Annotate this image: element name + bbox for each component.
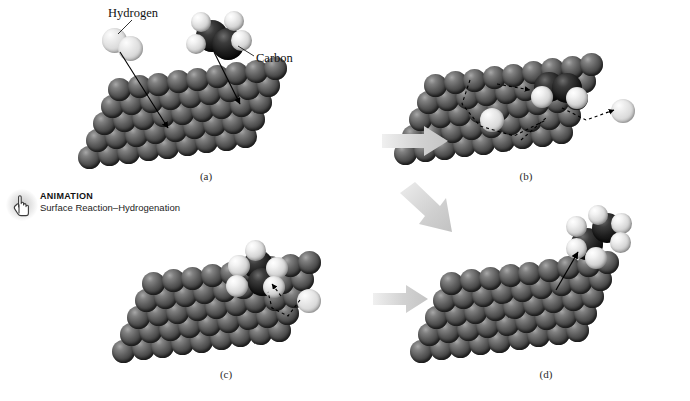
animation-title: ANIMATION [40, 191, 93, 201]
hydrogen-atom-adsorbed [611, 99, 635, 123]
hydrogen-atom [263, 276, 285, 298]
hydrogen-atom [610, 232, 631, 253]
figure-canvas: Hydrogen Carbon (a) (b) (c) [0, 0, 690, 401]
panel-caption-c: (c) [206, 368, 246, 380]
hydrogen-atom [191, 12, 211, 32]
hydrogen-atom [611, 213, 632, 234]
hydrogen-atom [566, 216, 587, 237]
hydrogen-atom [588, 205, 608, 225]
hydrogen-atom [585, 247, 607, 269]
hydrogen-atom-adsorbed [480, 108, 504, 132]
hydrogen-atom [531, 86, 553, 108]
hydrogen-atom [566, 87, 588, 109]
hydrogen-atom [186, 34, 206, 54]
hydrogen-atom-adsorbed [297, 289, 321, 313]
hydrogen-atom [224, 11, 244, 31]
hydrogen-atom [118, 36, 143, 61]
hydrogen-atom [226, 275, 248, 297]
panel-caption-b: (b) [506, 170, 546, 182]
animation-badge[interactable]: ANIMATION Surface Reaction–Hydrogenation [4, 188, 184, 224]
hydrogen-atom [231, 30, 252, 51]
hydrogen-atom [228, 255, 250, 277]
panel-caption-d: (d) [526, 368, 566, 380]
panel-caption-a: (a) [186, 170, 226, 182]
hand-pointer-icon [6, 189, 38, 221]
hydrogen-atom [245, 240, 266, 261]
carbon-label: Carbon [256, 51, 293, 66]
animation-subtitle: Surface Reaction–Hydrogenation [40, 202, 180, 213]
hydrogen-atom [566, 238, 587, 259]
hydrogen-label: Hydrogen [108, 6, 158, 21]
